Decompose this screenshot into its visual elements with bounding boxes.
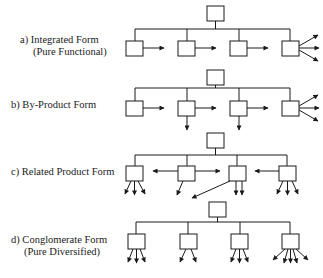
output-arrow-icon <box>140 249 145 262</box>
unit-box <box>230 101 247 116</box>
output-arrow-icon <box>299 50 318 61</box>
unit-box <box>178 166 195 181</box>
output-arrow-icon <box>125 181 131 194</box>
unit-box <box>180 234 197 249</box>
unit-box <box>178 41 195 56</box>
output-arrow-icon <box>192 181 230 198</box>
output-arrow-icon <box>277 181 283 194</box>
headquarters-box <box>209 202 226 217</box>
output-arrow-icon <box>293 249 297 263</box>
output-arrow-icon <box>299 110 318 121</box>
unit-box <box>282 41 299 56</box>
headquarters-box <box>207 70 224 85</box>
unit-box <box>126 41 143 56</box>
org-structure-diagram <box>0 0 323 278</box>
output-arrow-icon <box>191 249 196 262</box>
output-arrow-icon <box>180 249 186 262</box>
output-arrow-icon <box>177 181 183 195</box>
output-arrow-icon <box>299 35 318 46</box>
unit-box <box>282 101 299 116</box>
unit-box <box>178 101 195 116</box>
unit-box <box>282 234 299 249</box>
output-arrow-icon <box>296 249 308 260</box>
output-arrow-icon <box>128 249 133 262</box>
unit-box <box>231 234 248 249</box>
output-arrow-icon <box>292 181 298 194</box>
panel-c-diagram <box>125 133 298 198</box>
unit-box <box>279 166 296 181</box>
unit-box <box>128 234 145 249</box>
output-arrow-icon <box>243 249 248 262</box>
output-arrow-icon <box>138 181 145 194</box>
panel-a-diagram <box>126 6 319 61</box>
figure-caption: Figure (caption cut off) <box>2 272 95 278</box>
output-arrow-icon <box>299 95 318 106</box>
unit-box <box>229 166 246 181</box>
unit-box <box>126 166 143 181</box>
panel-d-diagram <box>128 202 308 263</box>
output-arrow-icon <box>284 249 288 263</box>
unit-box <box>230 41 247 56</box>
output-arrow-icon <box>273 249 285 260</box>
unit-box <box>126 101 143 116</box>
headquarters-box <box>207 6 224 21</box>
output-arrow-icon <box>231 249 236 262</box>
panel-b-diagram <box>126 70 319 130</box>
headquarters-box <box>207 133 224 148</box>
